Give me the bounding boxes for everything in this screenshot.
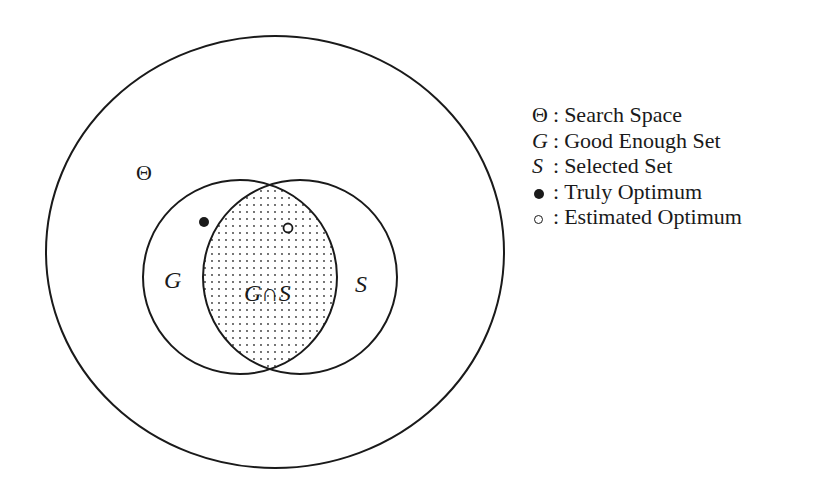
truly-optimum-marker-icon [199,217,209,227]
venn-diagram: Θ G S G∩S [0,0,826,501]
legend-label: Good Enough Set [564,128,720,154]
good-enough-set-label: G [164,267,181,293]
legend-separator: : [553,128,559,154]
legend-label: Selected Set [564,153,672,179]
hollow-dot-icon [532,204,550,230]
search-space-label: Θ [136,160,152,185]
legend-label: Search Space [564,102,682,128]
intersection-label: G∩S [244,280,291,306]
legend-separator: : [553,179,559,205]
legend-item-good-enough-set: G : Good Enough Set [532,128,742,154]
legend-separator: : [553,153,559,179]
selected-set-label: S [355,271,367,297]
legend-label: Truly Optimum [564,179,702,205]
legend-label: Estimated Optimum [564,204,742,230]
legend-separator: : [553,102,559,128]
s-symbol-icon: S [532,153,550,179]
legend-item-selected-set: S : Selected Set [532,153,742,179]
estimated-optimum-marker-icon [284,224,293,233]
legend-separator: : [553,204,559,230]
g-symbol-icon: G [532,128,550,154]
filled-dot-icon [532,179,550,205]
legend-item-estimated-optimum: : Estimated Optimum [532,204,742,230]
legend-item-search-space: Θ : Search Space [532,102,742,128]
legend: Θ : Search Space G : Good Enough Set S :… [532,102,742,230]
theta-icon: Θ [532,102,550,128]
legend-item-truly-optimum: : Truly Optimum [532,179,742,205]
